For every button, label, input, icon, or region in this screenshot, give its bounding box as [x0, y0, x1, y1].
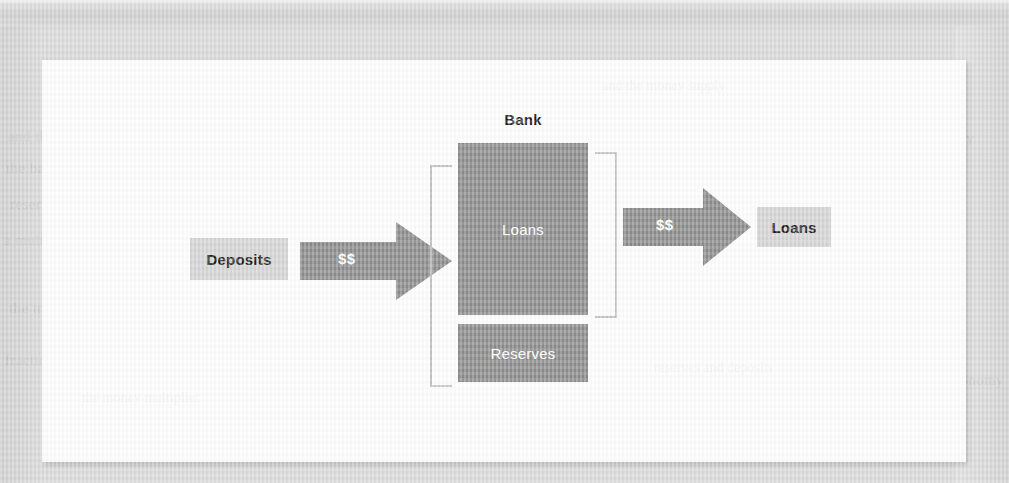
panel-ghost-line: and the money supply — [602, 78, 725, 94]
bracket-right-icon — [595, 152, 617, 318]
loans-arrow-label: $$ — [656, 216, 674, 233]
deposits-box: Deposits — [190, 238, 288, 280]
bracket-left-icon — [430, 165, 452, 387]
scanned-page: and the money supply the banking system … — [0, 0, 1009, 483]
panel-ghost-line: the money multiplier — [82, 390, 199, 406]
panel-ghost-line: reserves and deposits — [654, 360, 773, 376]
figure-panel: and the money supply reserves and deposi… — [42, 60, 966, 462]
page-top-band — [0, 0, 1009, 26]
bank-reserves-box: Reserves — [458, 324, 588, 382]
deposits-arrow-label: $$ — [338, 250, 356, 267]
bank-to-loans-arrow: $$ — [623, 188, 751, 266]
bank-loans-box: Loans — [458, 143, 588, 315]
destination-loans-box: Loans — [757, 207, 831, 247]
right-arrow-icon — [623, 188, 751, 266]
bank-label: Bank — [458, 111, 588, 128]
